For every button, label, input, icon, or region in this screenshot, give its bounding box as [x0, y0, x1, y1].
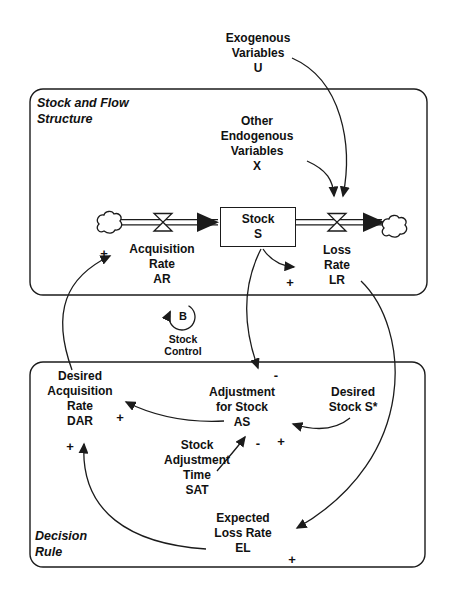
- node-other-endogenous-variables: OtherEndogenousVariablesX: [221, 114, 294, 174]
- stock-box: StockS: [220, 207, 296, 247]
- system-dynamics-diagram: Stock and FlowStructure DecisionRule Exo…: [0, 0, 449, 599]
- node-desired-acquisition-rate: DesiredAcquisitionRateDAR: [47, 369, 112, 429]
- arrow-stock-to-adjustment: [247, 249, 261, 368]
- arrow-desired-stock-to-adjustment: [293, 418, 350, 429]
- node-expected-loss-rate: ExpectedLoss RateEL: [214, 511, 271, 556]
- cloud-sink-icon: [382, 215, 406, 237]
- stock-box-label: StockS: [242, 212, 275, 242]
- outflow-arrowhead-icon: [363, 213, 385, 233]
- stock-and-flow-frame-title: Stock and FlowStructure: [37, 96, 129, 127]
- polarity-dar-from-expected-loss: +: [66, 440, 74, 453]
- node-exogenous-variables: ExogenousVariablesU: [226, 31, 291, 76]
- diagram-graphics: [0, 0, 449, 599]
- balancing-loop-label: B: [179, 310, 187, 322]
- polarity-adjustment-from-desired-stock: +: [277, 435, 285, 448]
- polarity-adjustment-from-stock: -: [274, 369, 278, 382]
- node-loss-rate: LossRateLR: [323, 243, 351, 288]
- polarity-dar-from-adjustment: +: [116, 411, 124, 424]
- polarity-loss-rate: +: [286, 276, 294, 289]
- arrow-dar-to-acquisition-rate: [63, 256, 110, 370]
- arrow-stock-to-loss-rate: [263, 249, 294, 267]
- arrow-endogenous-to-loss-valve: [307, 161, 334, 196]
- cloud-source-icon: [97, 211, 121, 233]
- node-desired-stock: DesiredStock S*: [329, 385, 378, 415]
- polarity-adjustment-from-sat: -: [256, 437, 260, 450]
- inflow-valve-icon: [154, 214, 172, 232]
- balancing-loop-caption: StockControl: [164, 334, 201, 357]
- polarity-acquisition-rate: +: [100, 247, 108, 260]
- node-acquisition-rate: AcquisitionRateAR: [129, 242, 194, 287]
- node-adjustment-for-stock: Adjustmentfor StockAS: [209, 385, 275, 430]
- inflow-arrowhead-icon: [197, 213, 219, 233]
- arrow-exogenous-to-loss-valve: [292, 58, 346, 196]
- decision-rule-frame-title: DecisionRule: [35, 529, 87, 560]
- node-stock-adjustment-time: StockAdjustmentTimeSAT: [164, 438, 230, 498]
- polarity-expected-loss-from-loss-rate: +: [288, 553, 296, 566]
- outflow-valve-icon: [328, 214, 346, 232]
